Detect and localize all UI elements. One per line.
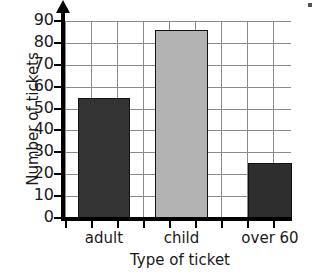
y-axis-tick: [54, 86, 62, 88]
corner-mark: [308, 3, 312, 7]
bar-chart: Number of tickets Type of ticket 0102030…: [0, 0, 316, 275]
y-axis-tick-label: 30: [14, 143, 54, 159]
x-axis-tick: [143, 221, 145, 228]
y-axis-tick: [54, 173, 62, 175]
x-axis-tick: [91, 221, 93, 228]
y-axis-tick: [54, 151, 62, 153]
gridline-vertical: [221, 21, 222, 218]
y-axis-tick-label: 50: [14, 100, 54, 116]
y-axis-tick-label: 70: [14, 56, 54, 72]
y-axis-tick: [54, 20, 62, 22]
bar-adult: [78, 98, 130, 218]
y-axis-tick-label: 10: [14, 187, 54, 203]
x-axis-tick: [273, 221, 275, 228]
x-axis-tick: [117, 221, 119, 228]
y-axis-tick-label: 60: [14, 78, 54, 94]
bar-over-60: [248, 163, 292, 218]
y-axis-tick-label: 40: [14, 121, 54, 137]
y-axis-tick: [54, 64, 62, 66]
bar-child: [155, 30, 208, 218]
y-axis-tick: [54, 42, 62, 44]
y-axis-tick: [54, 195, 62, 197]
y-axis-arrow-icon: [56, 0, 70, 13]
x-axis-tick: [247, 221, 249, 228]
y-axis-tick-label: 0: [14, 209, 54, 225]
x-axis-title: Type of ticket: [60, 251, 300, 269]
x-axis-category-label: adult: [59, 229, 149, 247]
y-axis-tick-label: 90: [14, 12, 54, 28]
plot-area: [65, 21, 291, 218]
y-axis-tick: [54, 129, 62, 131]
y-axis-tick: [54, 108, 62, 110]
y-axis-tick-label: 80: [14, 34, 54, 50]
x-axis-category-label: child: [137, 229, 227, 247]
gridline-vertical: [65, 21, 66, 218]
y-axis-tick: [54, 217, 62, 219]
x-axis-tick: [195, 221, 197, 228]
x-axis-category-label: over 60: [225, 229, 315, 247]
x-axis-line: [61, 217, 292, 221]
x-axis-tick: [169, 221, 171, 228]
x-axis-tick: [65, 221, 67, 228]
gridline-vertical: [143, 21, 144, 218]
y-axis-tick-label: 20: [14, 165, 54, 181]
gridline-horizontal: [65, 21, 291, 22]
x-axis-tick: [221, 221, 223, 228]
